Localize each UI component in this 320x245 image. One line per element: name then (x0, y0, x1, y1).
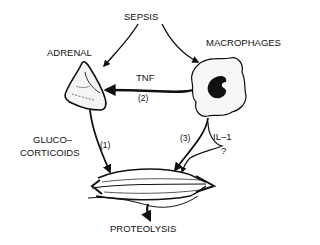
glucocorticoids-label-line1: GLUCO– (33, 134, 72, 145)
tnf-label: TNF (136, 72, 154, 83)
unknown-mechanism-label: ? (221, 145, 226, 156)
macrophages-label: MACROPHAGES (206, 37, 281, 48)
path-3-label: (3) (180, 133, 190, 144)
il1-label: IL–1 (213, 131, 232, 142)
arrow-tnf-macrophages-to-adrenal (106, 90, 192, 92)
arrow-il1-to-muscle (175, 118, 208, 170)
arrow-il1-unknown-path (182, 122, 222, 172)
arrow-sepsis-to-adrenal (104, 24, 138, 66)
proteolysis-label: PROTEOLYSIS (110, 223, 176, 234)
arrow-sepsis-to-macrophages (162, 24, 198, 62)
sepsis-label: SEPSIS (124, 11, 158, 22)
glucocorticoids-label-line2: CORTICOIDS (20, 147, 79, 158)
path-2-label: (2) (138, 93, 148, 104)
adrenal-label: ADRENAL (47, 47, 92, 58)
adrenal-gland-icon (65, 62, 106, 110)
macrophage-cell-icon (191, 58, 246, 117)
muscle-icon (88, 169, 214, 207)
arrow-muscle-to-proteolysis (147, 204, 150, 220)
path-1-label: (1) (100, 140, 110, 151)
